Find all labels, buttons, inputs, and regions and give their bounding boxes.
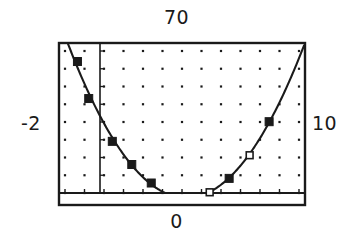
plot-canvas bbox=[0, 0, 353, 238]
plot-figure: 70 -2 10 0 bbox=[0, 0, 353, 238]
